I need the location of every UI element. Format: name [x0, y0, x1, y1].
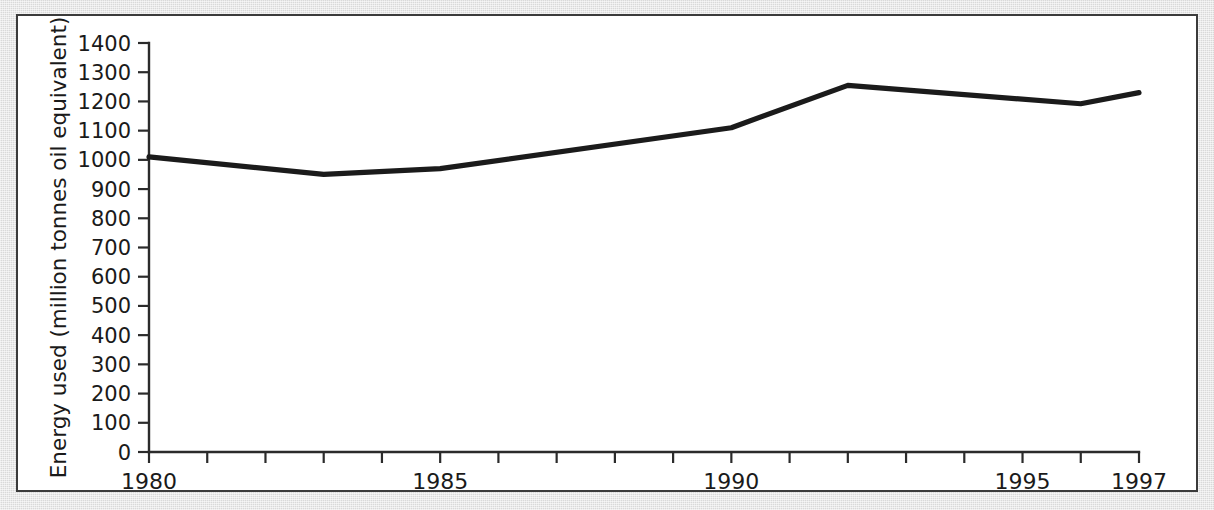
y-tick-label: 200: [91, 382, 131, 406]
y-tick-label: 1000: [78, 148, 131, 172]
x-tick-label: 1997: [1111, 469, 1167, 490]
x-tick-label: 1980: [121, 469, 177, 490]
y-tick-label: 900: [91, 178, 131, 202]
y-tick-label: 700: [91, 236, 131, 260]
y-tick-label: 1100: [78, 119, 131, 143]
y-axis-tick-labels: 0100200300400500600700800900100011001200…: [78, 32, 131, 465]
x-tick-label: 1985: [412, 469, 468, 490]
data-series-line: [149, 85, 1139, 174]
y-tick-label: 1400: [78, 32, 131, 56]
x-tick-label: 1995: [995, 469, 1051, 490]
y-tick-label: 600: [91, 265, 131, 289]
y-tick-label: 100: [91, 411, 131, 435]
y-tick-label: 0: [118, 441, 131, 465]
line-chart: 0100200300400500600700800900100011001200…: [18, 16, 1196, 490]
y-tick-label: 300: [91, 353, 131, 377]
x-tick-label: 1990: [703, 469, 759, 490]
y-axis-title: Energy used (million tonnes oil equivale…: [46, 17, 71, 479]
y-axis-tick-marks: [138, 43, 149, 452]
y-tick-label: 400: [91, 324, 131, 348]
chart-figure-frame: 0100200300400500600700800900100011001200…: [16, 14, 1198, 492]
y-tick-label: 1200: [78, 90, 131, 114]
x-axis-tick-marks: [149, 452, 1139, 463]
x-axis-tick-labels: 19801985199019951997: [121, 469, 1167, 490]
y-tick-label: 500: [91, 294, 131, 318]
y-tick-label: 800: [91, 207, 131, 231]
y-tick-label: 1300: [78, 61, 131, 85]
